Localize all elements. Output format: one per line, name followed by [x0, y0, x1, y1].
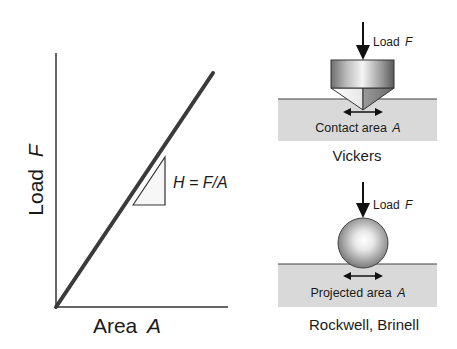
- rockwell-title: Rockwell, Brinell: [309, 316, 419, 333]
- x-axis-var: A: [145, 314, 161, 337]
- vickers-indenter-body: [331, 60, 394, 88]
- y-axis-title: Load F: [24, 143, 47, 216]
- hardness-diagram: H = F/A Load F Area A Load F: [0, 0, 457, 349]
- rockwell-brinell-illustration: Load F Projected area A Rockwell, Brinel…: [278, 182, 437, 333]
- rockwell-area-label: Projected area A: [310, 286, 405, 300]
- svg-text:Load F: Load F: [24, 143, 47, 216]
- rockwell-load-arrow-icon: [356, 203, 370, 218]
- vickers-illustration: Load F Contact area A Vickers: [278, 22, 437, 164]
- y-axis-var: F: [24, 143, 47, 157]
- slope-triangle: [133, 157, 165, 205]
- rockwell-load-label: Load F: [373, 198, 413, 212]
- x-axis-title: Area A: [93, 314, 161, 337]
- load-area-graph: H = F/A Load F Area A: [24, 53, 228, 337]
- slope-label: H = F/A: [173, 174, 228, 191]
- ball-indenter: [338, 218, 388, 268]
- vickers-load-label: Load F: [373, 35, 413, 49]
- vickers-title: Vickers: [333, 147, 382, 164]
- x-axis-label: Area: [93, 314, 138, 337]
- vickers-area-label: Contact area A: [315, 121, 400, 135]
- vickers-load-arrow-icon: [356, 45, 370, 60]
- y-axis-label: Load: [24, 169, 47, 216]
